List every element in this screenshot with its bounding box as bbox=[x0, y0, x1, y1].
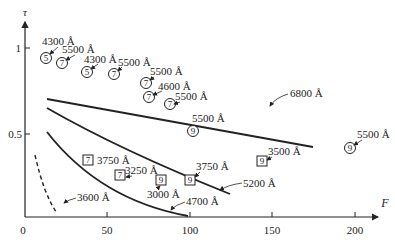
point: 9 5500 Å bbox=[345, 128, 390, 154]
svg-text:4300 Å: 4300 Å bbox=[84, 53, 117, 65]
svg-text:7: 7 bbox=[118, 170, 123, 180]
svg-text:9: 9 bbox=[191, 126, 196, 136]
svg-text:3750 Å: 3750 Å bbox=[196, 160, 229, 172]
svg-text:7: 7 bbox=[147, 92, 152, 102]
point: 7 5500 Å bbox=[165, 90, 208, 110]
point: 9 3000 Å bbox=[147, 175, 180, 200]
x-tick-100: 100 bbox=[182, 224, 199, 236]
label-3600: 3600 Å bbox=[77, 191, 110, 203]
svg-text:7: 7 bbox=[112, 69, 117, 79]
point: 9 5500 Å bbox=[188, 112, 225, 137]
point: 9 3750 Å bbox=[185, 160, 229, 185]
svg-text:5500 Å: 5500 Å bbox=[118, 56, 151, 68]
label-4700: 4700 Å bbox=[186, 195, 219, 207]
svg-text:7: 7 bbox=[144, 78, 149, 88]
svg-text:9: 9 bbox=[188, 175, 193, 185]
svg-text:9: 9 bbox=[159, 175, 164, 185]
x-tick-0: 0 bbox=[20, 224, 26, 236]
point: 9 3500 Å bbox=[257, 145, 301, 166]
svg-text:9: 9 bbox=[260, 156, 265, 166]
svg-text:5500 Å: 5500 Å bbox=[150, 65, 183, 77]
label-6800: 6800 Å bbox=[290, 87, 323, 99]
y-tick-1: 1 bbox=[16, 42, 22, 54]
svg-text:7: 7 bbox=[86, 155, 91, 165]
svg-text:7: 7 bbox=[168, 99, 173, 109]
x-axis-label: F bbox=[380, 196, 389, 210]
svg-text:3000 Å: 3000 Å bbox=[147, 188, 180, 200]
svg-text:5: 5 bbox=[44, 53, 49, 63]
x-tick-200: 200 bbox=[347, 224, 364, 236]
circle-points: 5 4300 Å 7 5500 Å 5 4300 Å 7 5500 Å 7 55… bbox=[41, 35, 390, 154]
svg-text:5500 Å: 5500 Å bbox=[357, 128, 390, 140]
chart: 0 50 100 150 200 1 0.5 τ F 6800 Å 5200 Å… bbox=[0, 0, 395, 240]
curve-3600 bbox=[35, 155, 57, 213]
point: 7 3250 Å bbox=[115, 164, 158, 180]
curve-6800 bbox=[47, 99, 313, 147]
x-tick-50: 50 bbox=[102, 224, 114, 236]
svg-text:5: 5 bbox=[85, 67, 90, 77]
svg-text:5500 Å: 5500 Å bbox=[175, 90, 208, 102]
svg-text:3500 Å: 3500 Å bbox=[268, 145, 301, 157]
x-tick-150: 150 bbox=[264, 224, 281, 236]
label-5200: 5200 Å bbox=[243, 177, 276, 189]
svg-text:9: 9 bbox=[348, 143, 353, 153]
point: 7 3750 Å bbox=[83, 154, 130, 166]
y-axis-label: τ bbox=[23, 6, 28, 18]
svg-text:3250 Å: 3250 Å bbox=[125, 164, 158, 176]
svg-text:5500 Å: 5500 Å bbox=[192, 112, 225, 124]
svg-text:7: 7 bbox=[60, 58, 65, 68]
y-tick-0.5: 0.5 bbox=[8, 128, 22, 140]
